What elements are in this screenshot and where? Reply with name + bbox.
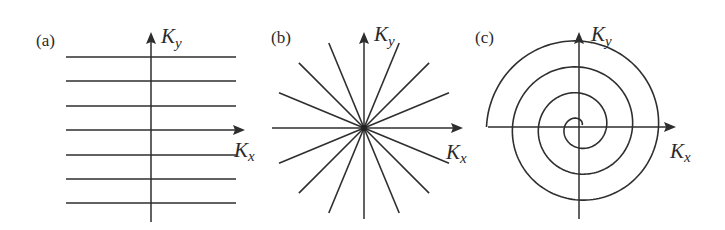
panel-c: (c) Ky Kx: [475, 22, 691, 219]
radial-spoke: [364, 128, 429, 193]
radial-spoke: [364, 63, 429, 128]
panel-b-ky-label: Ky: [373, 22, 395, 49]
panel-b-center-dot: [361, 125, 367, 131]
panel-c-kx-label: Kx: [669, 139, 691, 165]
panel-c-ky-label: Ky: [590, 22, 612, 49]
panel-c-label: (c): [475, 28, 494, 47]
panel-a-kx-label: Kx: [233, 138, 255, 164]
panel-a: (a) Ky Kx: [36, 24, 255, 222]
panel-a-label: (a): [36, 31, 55, 50]
panel-a-ky-label: Ky: [160, 24, 182, 51]
panel-b: (b) Ky Kx: [271, 22, 467, 219]
radial-spoke: [299, 128, 364, 193]
panel-b-label: (b): [271, 28, 291, 47]
radial-spoke: [299, 63, 364, 128]
panel-b-kx-label: Kx: [445, 140, 467, 166]
k-space-trajectory-figure: (a) Ky Kx (b) Ky: [0, 0, 725, 230]
panel-c-spiral-trajectory: [487, 41, 659, 200]
